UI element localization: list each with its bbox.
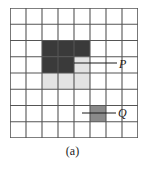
grid-cell-shaded <box>58 73 74 89</box>
grid-cell-shaded <box>42 41 58 57</box>
grid-cell-shaded <box>42 73 58 89</box>
grid-cell-shaded <box>42 57 58 73</box>
label-q: Q <box>118 107 127 119</box>
grid-cell-shaded <box>74 57 90 73</box>
figure-panel-a: P Q (a) <box>0 0 145 169</box>
grid-cell-shaded <box>90 106 106 122</box>
grid-cell-shaded <box>74 73 90 89</box>
grid-cell-shaded <box>58 41 74 57</box>
label-p: P <box>119 58 126 70</box>
figure-caption: (a) <box>0 145 145 157</box>
grid-cell-shaded <box>58 57 74 73</box>
grid-cell-shaded <box>74 41 90 57</box>
